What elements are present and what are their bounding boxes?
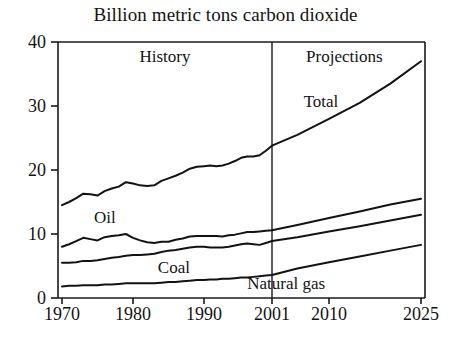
x-tick-label-2025: 2025 bbox=[403, 304, 439, 325]
y-tick-label-40: 40 bbox=[4, 32, 46, 53]
annotation-history: History bbox=[139, 47, 190, 67]
annotation-total: Total bbox=[304, 92, 339, 112]
annotation-coal: Coal bbox=[158, 258, 190, 278]
chart-figure: Billion metric tons carbon dioxide 01020… bbox=[0, 0, 451, 346]
plot-canvas bbox=[0, 0, 451, 346]
annotation-projections: Projections bbox=[306, 47, 383, 67]
y-tick-label-10: 10 bbox=[4, 224, 46, 245]
y-tick-label-30: 30 bbox=[4, 96, 46, 117]
x-tick-label-1980: 1980 bbox=[115, 304, 151, 325]
series-line-total bbox=[62, 61, 421, 205]
x-tick-label-2010: 2010 bbox=[311, 304, 347, 325]
annotation-natural-gas: Natural gas bbox=[247, 274, 325, 294]
x-tick-label-1970: 1970 bbox=[44, 304, 80, 325]
y-tick-label-20: 20 bbox=[4, 160, 46, 181]
x-tick-label-2001: 2001 bbox=[254, 304, 290, 325]
y-tick-label-0: 0 bbox=[4, 288, 46, 309]
annotation-oil: Oil bbox=[94, 208, 116, 228]
x-tick-label-1990: 1990 bbox=[186, 304, 222, 325]
series-line-natural-gas bbox=[62, 245, 421, 287]
